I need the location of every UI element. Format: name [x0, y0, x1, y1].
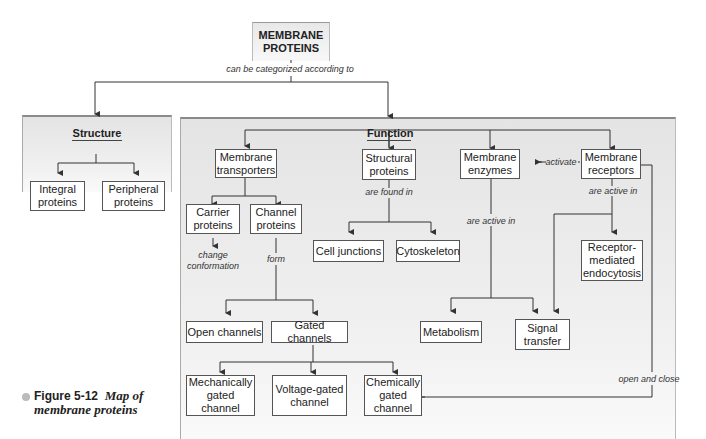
are-found-in-label: are found in	[354, 187, 424, 198]
membrane-transporters: Membranetransporters	[215, 149, 277, 178]
voltage-gated-channel: Voltage-gatedchannel	[272, 375, 347, 416]
structure-heading: Structure	[72, 127, 122, 141]
activate-label: activate	[540, 157, 582, 168]
open-channels: Open channels	[186, 321, 263, 343]
cell-junctions: Cell junctions	[313, 240, 384, 262]
form-label: form	[262, 254, 290, 265]
receptor-mediated-endocytosis: Receptor-mediatedendocytosis	[581, 240, 643, 281]
receptors-are-active-in-label: are active in	[582, 186, 644, 197]
structural-proteins: Structuralproteins	[362, 149, 416, 180]
membrane-receptors: Membranereceptors	[581, 149, 641, 179]
signal-transfer: Signaltransfer	[515, 319, 570, 350]
peripheral-proteins: Peripheralproteins	[102, 181, 165, 211]
carrier-proteins: Carrierproteins	[186, 204, 240, 234]
metabolism: Metabolism	[420, 321, 482, 343]
enzymes-are-active-in-label: are active in	[460, 216, 522, 227]
gated-channels: Gated channels	[271, 321, 348, 343]
open-and-close-label: open and close	[616, 374, 682, 385]
chemically-gated-channel: Chemicallygatedchannel	[364, 375, 422, 416]
cytoskeleton: Cytoskeleton	[396, 240, 460, 262]
membrane-enzymes: Membraneenzymes	[460, 149, 520, 179]
mechanically-gated-channel: Mechanicallygatedchannel	[186, 375, 255, 416]
function-heading: Function	[367, 127, 411, 141]
change-conformation-label: changeconformation	[180, 250, 246, 272]
bullet-icon	[22, 393, 30, 401]
channel-proteins: Channelproteins	[250, 204, 302, 234]
integral-proteins: Integralproteins	[30, 181, 85, 211]
figure-caption: Figure 5-12 Map of membrane proteins	[22, 389, 143, 417]
